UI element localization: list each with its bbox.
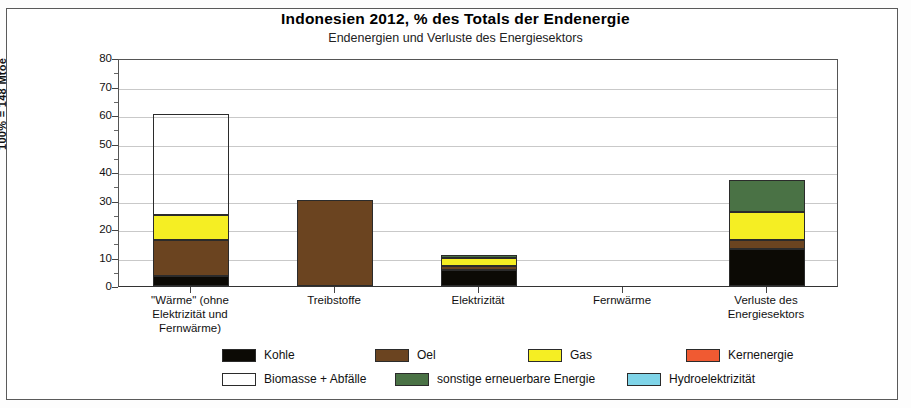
x-axis-tick-label: Verluste desEnergiesektors [686, 293, 846, 321]
bar-segment [729, 180, 805, 212]
x-axis-tick-label-line: Elektrizität [398, 293, 558, 307]
bar-segment [441, 266, 517, 270]
y-axis-tick-mark [112, 202, 118, 203]
bar-stack [153, 58, 229, 286]
y-axis-tick-labels: 01020304050607080 [78, 52, 112, 294]
bar-segment [729, 240, 805, 249]
legend-item: Biomasse + Abfälle [222, 372, 366, 386]
y-axis-tick-label: 60 [78, 110, 112, 122]
y-axis-tick-mark [112, 59, 118, 60]
y-axis-tick-mark [112, 145, 118, 146]
legend-swatch [375, 349, 409, 362]
legend-row-1: KohleOelGasKernenergie [0, 348, 911, 372]
legend-swatch [686, 349, 720, 362]
bar-segment [153, 114, 229, 216]
legend-label: Gas [570, 348, 592, 362]
chart-legend: KohleOelGasKernenergie Biomasse + Abfäll… [0, 348, 911, 396]
chart-title: Indonesien 2012, % des Totals der Endene… [0, 10, 911, 28]
bar-segment [153, 215, 229, 240]
legend-swatch [528, 349, 562, 362]
y-axis-minor-tick-mark [114, 216, 118, 217]
y-axis-tick-label: 10 [78, 253, 112, 265]
y-axis-tick-mark [112, 173, 118, 174]
bar-segment [297, 200, 373, 286]
legend-swatch [395, 373, 429, 386]
legend-label: Hydroelektrizität [669, 372, 755, 386]
x-axis-tick-label-line: Fernwärme [542, 293, 702, 307]
bar-segment [729, 212, 805, 240]
y-axis-tick-mark [112, 259, 118, 260]
y-axis-tick-mark [112, 116, 118, 117]
y-axis-tick-label: 70 [78, 82, 112, 94]
legend-label: Biomasse + Abfälle [264, 372, 366, 386]
chart-page: Indonesien 2012, % des Totals der Endene… [0, 0, 911, 408]
y-axis-tick-label: 30 [78, 196, 112, 208]
y-axis-minor-tick-mark [114, 187, 118, 188]
x-axis-tick-label: "Wärme" (ohneElektrizität undFernwärme) [110, 293, 270, 335]
x-axis-tick-label-line: Elektrizität und [110, 307, 270, 321]
legend-swatch [222, 373, 256, 386]
y-axis-tick-mark [112, 230, 118, 231]
x-axis-tick-label-line: Verluste des [686, 293, 846, 307]
x-axis-tick-label: Fernwärme [542, 293, 702, 307]
y-axis-tick-mark [112, 88, 118, 89]
legend-label: Kernenergie [728, 348, 793, 362]
bar-stack [729, 58, 805, 286]
x-axis-tick-label-line: Fernwärme) [110, 321, 270, 335]
bar-segment [441, 255, 517, 258]
legend-item: Kohle [222, 348, 295, 362]
y-axis-minor-tick-mark [114, 244, 118, 245]
y-axis-title: 100% = 148 Mtoe [0, 58, 8, 150]
y-axis-tick-label: 40 [78, 167, 112, 179]
chart-subtitle: Endenergien und Verluste des Energiesekt… [0, 31, 911, 45]
y-axis-minor-tick-mark [114, 159, 118, 160]
bar-segment [153, 276, 229, 286]
y-axis-minor-tick-mark [114, 130, 118, 131]
x-axis-tick-label-line: Treibstoffe [254, 293, 414, 307]
bar-segment [729, 249, 805, 286]
bar-stack [585, 58, 661, 286]
x-axis-tick-label-line: Energiesektors [686, 307, 846, 321]
legend-swatch [222, 349, 256, 362]
y-axis-tick-label: 20 [78, 224, 112, 236]
bar-segment [441, 258, 517, 266]
legend-label: Kohle [264, 348, 295, 362]
y-axis-tick-label: 50 [78, 139, 112, 151]
legend-item: Oel [375, 348, 436, 362]
bar-segment [153, 240, 229, 275]
y-axis-tick-mark [112, 287, 118, 288]
y-axis-minor-tick-mark [114, 273, 118, 274]
legend-label: Oel [417, 348, 436, 362]
legend-item: Hydroelektrizität [627, 372, 755, 386]
y-axis-tick-label: 80 [78, 53, 112, 65]
legend-item: Kernenergie [686, 348, 793, 362]
bar-segment [441, 270, 517, 286]
x-axis-tick-label-line: "Wärme" (ohne [110, 293, 270, 307]
bar-stack [441, 58, 517, 286]
x-axis-tick-label: Elektrizität [398, 293, 558, 307]
y-axis-minor-tick-mark [114, 73, 118, 74]
legend-swatch [627, 373, 661, 386]
legend-item: Gas [528, 348, 592, 362]
y-axis-minor-tick-mark [114, 102, 118, 103]
y-axis-tick-label: 0 [78, 281, 112, 293]
legend-item: sonstige erneuerbare Energie [395, 372, 595, 386]
plot-area [118, 59, 838, 287]
bar-stack [297, 58, 373, 286]
x-axis-tick-label: Treibstoffe [254, 293, 414, 307]
legend-row-2: Biomasse + Abfällesonstige erneuerbare E… [0, 372, 911, 396]
legend-label: sonstige erneuerbare Energie [437, 372, 595, 386]
